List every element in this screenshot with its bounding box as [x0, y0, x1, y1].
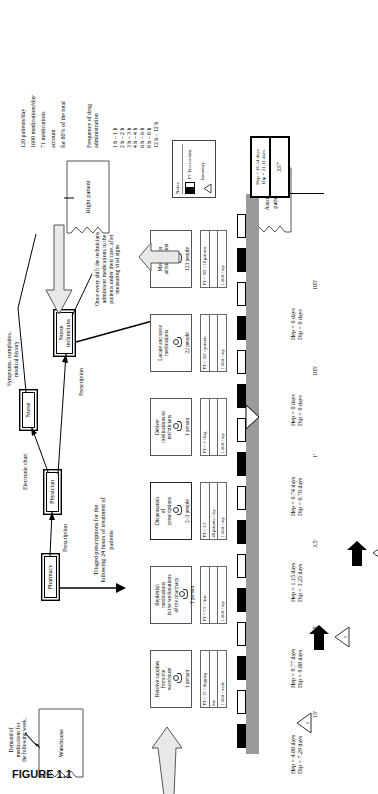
push-arrow-2	[346, 0, 368, 566]
operator-icon	[173, 507, 184, 515]
process-box-receive-supplies: Receive supplies from the warehouse 1 pe…	[150, 650, 192, 708]
data-box-receive-supplies: PT = 15' / shipping bin 1 shift / week	[200, 650, 227, 708]
timeline-step-block	[237, 520, 246, 544]
lead-time-hep: Hep = 0.74 days	[290, 477, 297, 516]
lead-time-dip: Dip = 0 days	[297, 394, 304, 426]
process-time-4: 105'	[312, 366, 319, 376]
lead-time-3: Hep = 0.74 days Dip = 0.70 days	[290, 477, 304, 516]
inventory-triangle-2: I	[372, 542, 378, 564]
data-cell-shift: 1 shift / day	[218, 567, 226, 623]
timeline-step-block	[237, 282, 246, 306]
legend-box: Notes PT Process time Inventory	[172, 140, 216, 198]
lead-time-hep: Hep = 0 days	[290, 394, 297, 426]
process-box-deliver: Deliver medications to technicians 1 per…	[150, 398, 192, 456]
timeline	[246, 194, 268, 754]
total-summary-box: Hep = 16.54 days Dip = 21.11 days 337'	[250, 136, 290, 198]
process-people: 1 person	[189, 586, 196, 604]
process-people: 1 person	[184, 670, 191, 688]
figure-page: Warehouse Demand of medications for the …	[0, 0, 378, 794]
data-cell-shift: 1 shift / day	[218, 483, 226, 539]
data-cell-shift: 1 shift / day	[218, 399, 226, 455]
data-cell-unit	[210, 315, 219, 371]
lead-time-hep: Hep = 1.15 days	[290, 563, 297, 602]
lead-time-dip: Dip = 0 days	[297, 308, 304, 340]
lead-time-dip: Dip = 3.25 days	[297, 563, 304, 602]
total-lead-time: Hep = 16.54 days Dip = 21.11 days	[252, 138, 271, 196]
total-connector-line	[290, 193, 324, 194]
data-cell-shift: 1 shift / day	[218, 315, 226, 371]
value-stream-map-canvas: Warehouse Demand of medications for the …	[0, 0, 378, 794]
process-time-swatch-icon	[185, 182, 195, 194]
timeline-step-block	[237, 486, 246, 510]
data-cell-unit: 40 patients / day	[210, 483, 219, 539]
timeline-step-block	[237, 248, 246, 272]
data-box-locate-store: PT = 105' / patients 1 shift / day	[200, 314, 227, 372]
lead-time-0: Hep = 4.88 days Dip = 7.29 days	[290, 735, 304, 774]
process-name: Receive supplies from the warehouse	[151, 659, 173, 699]
lead-time-4: Hep = 0 days Dip = 0 days	[290, 394, 304, 426]
lead-time-dip: Dip = 0.70 days	[297, 477, 304, 516]
shipment-arrow-right-patient	[40, 224, 78, 324]
lead-time-5: Hep = 0 days Dip = 0 days	[290, 308, 304, 340]
process-people: 1 person	[184, 418, 191, 436]
operator-icon	[173, 339, 184, 347]
process-name: Dispensation of prescriptions	[151, 495, 173, 527]
operator-icon	[173, 423, 184, 431]
timeline-base	[246, 194, 259, 754]
process-people: 22 people	[184, 332, 191, 353]
data-box-deliver: PT = 1' / bag 1 shift / day	[200, 398, 227, 456]
lead-time-hep: Hep = 4.88 days	[290, 735, 297, 774]
timeline-step-block	[237, 724, 246, 748]
timeline-step-block	[237, 452, 246, 476]
data-cell-unit	[210, 567, 219, 623]
process-people: 123 people	[184, 247, 191, 271]
timeline-steps	[237, 194, 247, 754]
process-time-2: 3.5'	[312, 539, 319, 548]
process-time-1: 7.5'	[312, 625, 319, 634]
data-box-replenish: PT = 7.5' / item 1 shift / day	[200, 566, 227, 624]
data-cell-pt: PT = 7.5' / item	[201, 567, 210, 623]
total-dip: Dip = 21.11 days	[261, 150, 267, 184]
data-cell-pt: PT = 105' / 10 patients	[201, 231, 210, 287]
push-arrow-1	[308, 0, 330, 650]
data-cell-pt: PT = 15' / shipping	[201, 651, 210, 707]
shipment-arrow-another-patient	[138, 240, 180, 274]
data-cell-pt: PT = 3.5'	[201, 483, 210, 539]
process-box-locate-store: Locate and store medications 22 people	[150, 314, 192, 372]
inventory-triangle-0: I	[296, 712, 312, 734]
data-cell-unit	[210, 399, 219, 455]
lead-time-2: Hep = 1.15 days Dip = 3.25 days	[290, 563, 304, 602]
process-time-3: 1'	[312, 454, 319, 458]
timeline-step-block	[237, 214, 246, 238]
timeline-step-block	[237, 588, 246, 612]
timeline-step-block	[237, 690, 246, 714]
process-time-5: 105'	[312, 280, 319, 290]
data-cell-unit	[210, 231, 219, 287]
timeline-notch	[245, 404, 260, 430]
lead-time-dip: Dip = 7.29 days	[297, 735, 304, 774]
data-cell-pt: PT = 105' / patients	[201, 315, 210, 371]
data-cell-shift: 1 shift / day	[218, 231, 226, 287]
inventory-triangle-icon	[198, 183, 207, 194]
data-cell-shift: 1 shift / week	[218, 651, 226, 707]
process-box-replenish: Replenish medications in the workstation…	[150, 566, 192, 624]
legend-row-inventory: Inventory	[198, 144, 207, 194]
inventory-triangle-1: I	[334, 626, 350, 648]
inventory-qty: I	[305, 712, 311, 734]
inventory-qty: I	[343, 626, 349, 648]
total-process-time: 337'	[271, 138, 288, 196]
lead-time-1: Hep = 9.77 days Dip = 9.88 days	[290, 649, 304, 688]
lead-time-hep: Hep = 9.77 days	[290, 649, 297, 688]
legend-label-process-time: PT Process time	[187, 149, 192, 179]
figure-caption: FIGURE 1.1	[12, 768, 72, 780]
process-name: Replenish medications in the workstation…	[151, 572, 179, 617]
operator-icon	[179, 591, 189, 599]
process-name: Deliver medications to technicians	[151, 409, 173, 445]
data-box-dispensation: PT = 3.5' 40 patients / day 1 shift / da…	[200, 482, 227, 540]
timeline-step-block	[237, 656, 246, 680]
legend-title: Notes	[175, 144, 183, 194]
operator-icon	[173, 675, 184, 683]
data-box-medication-administration: PT = 105' / 10 patients 1 shift / day	[200, 230, 227, 288]
shipment-arrow-warehouse	[152, 726, 190, 794]
timeline-step-block	[237, 316, 246, 340]
